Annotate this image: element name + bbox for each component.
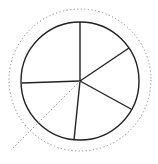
section-divider-3 — [80, 81, 131, 109]
section-divider-4 — [74, 81, 80, 140]
circle-diagram — [0, 0, 158, 164]
section-divider-2 — [80, 48, 129, 81]
section-divider-5 — [22, 81, 80, 83]
